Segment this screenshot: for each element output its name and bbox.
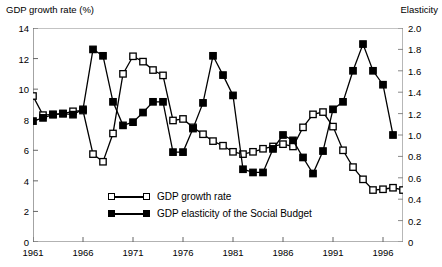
legend-line bbox=[111, 213, 147, 215]
legend-item-gdp-elasticity: GDP elasticity of the Social Budget bbox=[108, 205, 312, 222]
x-axis-tick-label: 1981 bbox=[222, 247, 243, 258]
legend-marker-right bbox=[143, 193, 150, 200]
x-axis-tick-label: 1991 bbox=[322, 247, 343, 258]
y2-axis-tick-label: 1.0 bbox=[408, 130, 421, 141]
x-axis-tick-label: 1966 bbox=[72, 247, 93, 258]
y2-axis-tick-label: 1.2 bbox=[408, 108, 421, 119]
y2-axis-tick-label: 0 bbox=[408, 237, 413, 248]
y2-axis-tick-label: 0.6 bbox=[408, 172, 421, 183]
legend-line bbox=[111, 196, 147, 198]
y-axis-tick-label: 8 bbox=[24, 114, 29, 125]
left-axis-title: GDP growth rate (%) bbox=[6, 4, 94, 15]
legend-label: GDP elasticity of the Social Budget bbox=[157, 208, 312, 219]
y2-axis-tick-label: 0.4 bbox=[408, 194, 421, 205]
legend-marker-right bbox=[143, 210, 150, 217]
x-axis-tick-label: 1961 bbox=[22, 247, 43, 258]
series-2 bbox=[33, 41, 396, 177]
x-axis-tick-label: 1971 bbox=[122, 247, 143, 258]
y-axis-tick-label: 4 bbox=[24, 175, 29, 186]
y2-axis-tick-label: 0.8 bbox=[408, 151, 421, 162]
legend-marker-left bbox=[108, 193, 115, 200]
legend-label: GDP growth rate bbox=[157, 191, 231, 202]
x-axis-tick-label: 1986 bbox=[272, 247, 293, 258]
y-axis-tick-label: 6 bbox=[24, 145, 29, 156]
y-axis-tick-label: 10 bbox=[18, 84, 29, 95]
legend-symbol-open-square bbox=[108, 192, 150, 202]
y-axis-tick-label: 0 bbox=[24, 237, 29, 248]
y2-axis-tick-label: 0.2 bbox=[408, 215, 421, 226]
chart-legend: GDP growth rate GDP elasticity of the So… bbox=[108, 188, 312, 222]
y2-axis-tick-label: 2.0 bbox=[408, 23, 421, 34]
y2-axis-tick-label: 1.8 bbox=[408, 44, 421, 55]
x-axis-tick-label: 1976 bbox=[172, 247, 193, 258]
right-axis-title: Elasticity bbox=[401, 4, 438, 15]
legend-marker-left bbox=[108, 210, 115, 217]
legend-symbol-filled-square bbox=[108, 209, 150, 219]
y2-axis-tick-label: 1.4 bbox=[408, 87, 421, 98]
y-axis-tick-label: 12 bbox=[18, 53, 29, 64]
y-axis-tick-label: 14 bbox=[18, 23, 29, 34]
y-axis-tick-label: 2 bbox=[24, 206, 29, 217]
legend-item-gdp-growth-rate: GDP growth rate bbox=[108, 188, 312, 205]
y2-axis-tick-label: 1.6 bbox=[408, 65, 421, 76]
x-axis-tick-label: 1996 bbox=[372, 247, 393, 258]
